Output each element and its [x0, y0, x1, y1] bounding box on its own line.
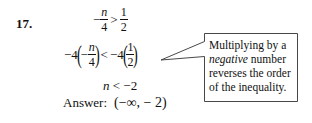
callout-line-1: Multiplying by a: [209, 38, 299, 52]
callout-line-2: negative number: [209, 52, 299, 66]
callout-line-3: reverses the order: [209, 66, 299, 80]
callout-italic-word: negative: [209, 53, 248, 65]
callout-note: Multiplying by a negative number reverse…: [209, 38, 299, 94]
callout-line-4: of the inequality.: [209, 80, 299, 94]
